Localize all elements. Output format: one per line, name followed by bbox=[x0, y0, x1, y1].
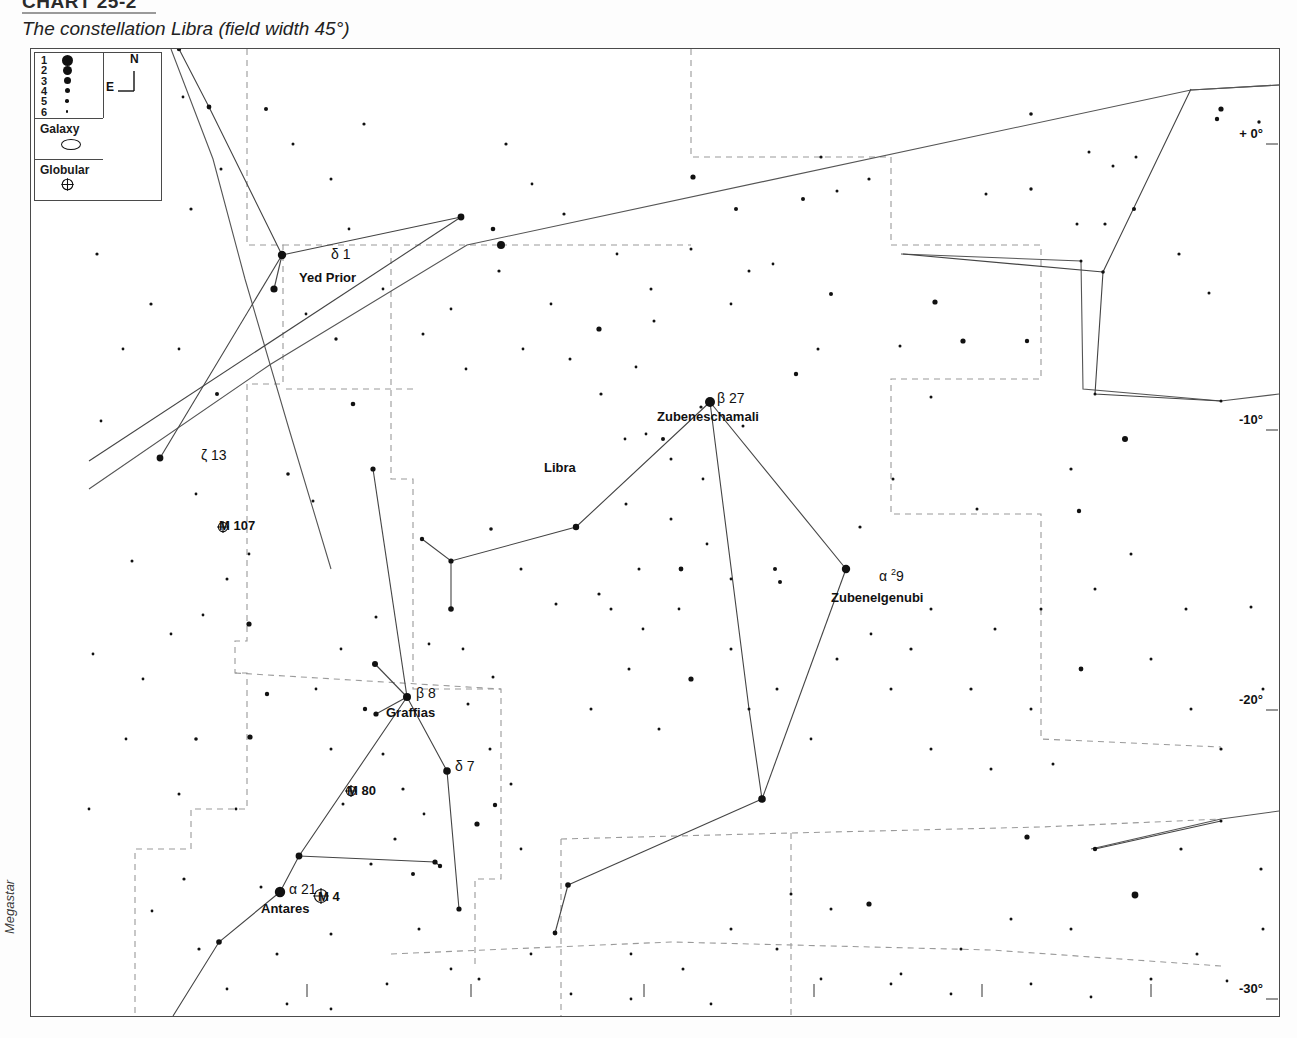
star bbox=[679, 567, 684, 572]
legend-galaxy-label: Galaxy bbox=[40, 122, 79, 136]
star bbox=[275, 887, 285, 897]
star bbox=[748, 270, 751, 273]
star bbox=[1190, 708, 1193, 711]
star bbox=[1101, 270, 1105, 274]
star bbox=[493, 803, 497, 807]
star bbox=[1069, 467, 1072, 470]
star bbox=[504, 142, 507, 145]
star bbox=[432, 859, 437, 864]
dso-label-0: M 107 bbox=[219, 519, 255, 532]
star bbox=[122, 348, 125, 351]
star bbox=[443, 767, 451, 775]
star bbox=[1196, 953, 1199, 956]
dso-label-2: M 4 bbox=[318, 890, 340, 903]
constellation-boundaries bbox=[135, 49, 1221, 1016]
ecliptic-and-galactic-lines bbox=[89, 49, 1279, 849]
legend-mag-dot-5 bbox=[65, 99, 69, 103]
star bbox=[1220, 820, 1223, 823]
star bbox=[411, 872, 415, 876]
star bbox=[330, 1008, 333, 1011]
star bbox=[215, 392, 219, 396]
star bbox=[930, 608, 933, 611]
star bbox=[1029, 187, 1032, 190]
star-name-label-2: Zubeneschamali bbox=[657, 410, 759, 423]
star bbox=[170, 633, 173, 636]
star bbox=[393, 837, 396, 840]
star-bayer-label-1: ζ 13 bbox=[201, 448, 227, 462]
star bbox=[960, 948, 963, 951]
star bbox=[197, 947, 200, 950]
star bbox=[178, 793, 181, 796]
star bbox=[315, 688, 318, 691]
star bbox=[985, 193, 988, 196]
star bbox=[1135, 156, 1138, 159]
star bbox=[510, 783, 513, 786]
star bbox=[100, 420, 103, 423]
legend-mag-dot-6 bbox=[66, 110, 68, 112]
star bbox=[1070, 928, 1073, 931]
star bbox=[520, 568, 523, 571]
star-bayer-label-4: β 8 bbox=[416, 686, 436, 700]
star bbox=[465, 368, 468, 371]
star bbox=[599, 392, 602, 395]
star bbox=[1088, 151, 1091, 154]
star bbox=[930, 748, 933, 751]
star bbox=[900, 973, 903, 976]
star bbox=[1090, 996, 1093, 999]
star bbox=[462, 648, 465, 651]
star bbox=[994, 628, 997, 631]
star bbox=[278, 251, 286, 259]
star bbox=[248, 553, 251, 556]
star bbox=[653, 320, 656, 323]
star bbox=[1179, 847, 1182, 850]
star bbox=[334, 337, 337, 340]
star bbox=[247, 734, 252, 739]
star bbox=[276, 953, 279, 956]
legend-mag-dot-3 bbox=[64, 77, 71, 84]
star bbox=[730, 303, 733, 306]
star bbox=[710, 1003, 713, 1006]
star bbox=[351, 402, 356, 407]
star bbox=[705, 397, 715, 407]
star bbox=[370, 466, 375, 471]
constellation-label-libra: Libra bbox=[544, 461, 576, 474]
star-name-label-6: Antares bbox=[261, 902, 309, 915]
star bbox=[1259, 867, 1262, 870]
star bbox=[403, 693, 411, 701]
star bbox=[690, 174, 695, 179]
star bbox=[858, 525, 861, 528]
star bbox=[794, 372, 798, 376]
star bbox=[690, 248, 693, 251]
star bbox=[330, 933, 333, 936]
star bbox=[836, 190, 839, 193]
star bbox=[829, 292, 833, 296]
legend-globular-label: Globular bbox=[40, 163, 89, 177]
star bbox=[448, 606, 454, 612]
star bbox=[638, 568, 641, 571]
star bbox=[810, 738, 813, 741]
star bbox=[520, 848, 523, 851]
star-map[interactable]: 123456 N E Galaxy Globular bbox=[30, 48, 1280, 1017]
star bbox=[553, 931, 558, 936]
star bbox=[286, 1003, 289, 1006]
legend-mag-dot-1 bbox=[62, 55, 73, 66]
star bbox=[1103, 222, 1106, 225]
star bbox=[88, 808, 91, 811]
star bbox=[478, 978, 481, 981]
dso-label-1: M 80 bbox=[347, 784, 376, 797]
star bbox=[1076, 223, 1079, 226]
star bbox=[870, 633, 873, 636]
star-points bbox=[88, 49, 1279, 1010]
star bbox=[182, 877, 185, 880]
star bbox=[890, 688, 893, 691]
star bbox=[801, 197, 805, 201]
star bbox=[286, 472, 290, 476]
star bbox=[597, 592, 600, 595]
star bbox=[570, 993, 573, 996]
star bbox=[450, 968, 453, 971]
star bbox=[742, 425, 745, 428]
star bbox=[382, 753, 385, 756]
star bbox=[819, 155, 822, 158]
star bbox=[628, 668, 631, 671]
star bbox=[610, 608, 613, 611]
